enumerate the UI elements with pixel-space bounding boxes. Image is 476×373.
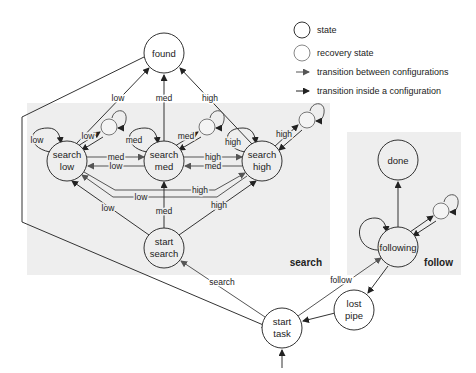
state-search-med-label-2: med	[155, 161, 173, 172]
label-low-recovery: low	[82, 131, 96, 141]
legend-between-label: transition between configurations	[317, 67, 449, 77]
recovery-state-low	[101, 119, 117, 135]
recovery-state-follow	[433, 203, 449, 219]
label-high-to-low: low	[135, 192, 149, 202]
label-high-to-med: med	[205, 161, 222, 171]
state-done-label: done	[387, 155, 408, 166]
state-machine-diagram: search follow	[0, 0, 476, 373]
state-lost-pipe-label-2: pipe	[345, 310, 363, 321]
legend: state recovery state transition between …	[294, 22, 449, 96]
label-start-to-low: low	[102, 203, 116, 213]
label-task-to-search: search	[209, 277, 235, 287]
state-search-high-label-2: high	[253, 161, 271, 172]
label-start-to-high: high	[211, 200, 227, 210]
state-start-task-label-2: task	[273, 328, 291, 339]
state-start-search-label-1: start	[155, 236, 174, 247]
state-search-med-label-1: search	[150, 149, 179, 160]
state-following-label: following	[380, 242, 417, 253]
state-found-label: found	[152, 48, 176, 59]
label-high-self: high	[225, 137, 241, 147]
label-low-to-found: low	[112, 93, 126, 103]
legend-state-label: state	[317, 25, 337, 35]
recovery-state-med	[199, 119, 215, 135]
label-med-recovery: med	[178, 131, 195, 141]
legend-state-icon	[294, 22, 310, 38]
state-lost-pipe-label-1: lost	[347, 298, 362, 309]
legend-recovery-state-icon	[294, 45, 310, 61]
label-high-recovery: high	[276, 129, 292, 139]
recovery-state-high	[299, 112, 315, 128]
label-med-self: med	[126, 135, 143, 145]
state-search-low-label-1: search	[53, 149, 82, 160]
state-search-low-label-2: low	[60, 161, 74, 172]
state-start-search-label-2: search	[150, 248, 179, 259]
label-low-to-high: high	[192, 185, 208, 195]
legend-inside-label: transition inside a configuration	[317, 86, 441, 96]
label-low-self: low	[31, 135, 45, 145]
legend-recovery-state-label: recovery state	[317, 48, 374, 58]
label-high-to-found: high	[202, 93, 218, 103]
state-search-high-label-1: search	[248, 149, 277, 160]
label-start-to-med: med	[156, 206, 173, 216]
label-task-to-follow: follow	[330, 275, 353, 285]
state-start-task-label-1: start	[273, 316, 292, 327]
edge-lost-pipe-to-start-task	[303, 313, 335, 321]
label-med-to-found: med	[156, 93, 173, 103]
search-panel-label: search	[290, 257, 322, 268]
label-med-to-low: low	[110, 161, 124, 171]
follow-panel-label: follow	[424, 257, 453, 268]
